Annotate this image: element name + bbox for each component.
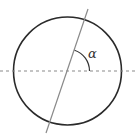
slanted-line bbox=[46, 9, 88, 133]
circle-angle-diagram: α bbox=[0, 0, 136, 139]
angle-label: α bbox=[88, 46, 97, 61]
